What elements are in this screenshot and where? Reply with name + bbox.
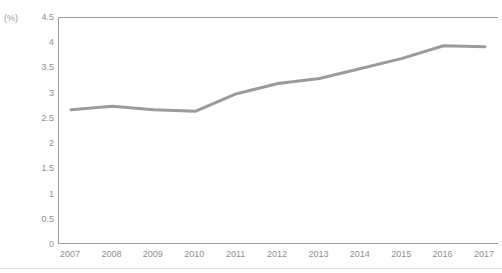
x-axis-tick-label: 2010: [184, 249, 204, 259]
y-axis-tick-label: 4: [24, 37, 54, 47]
x-axis: 2007200820092010201120122013201420152016…: [58, 249, 498, 265]
x-axis-tick-label: 2007: [60, 249, 80, 259]
x-axis-tick-label: 2011: [226, 249, 245, 259]
data-line-svg: [59, 18, 499, 245]
y-axis-tick-label: 2: [24, 138, 54, 148]
x-axis-tick-label: 2009: [143, 249, 163, 259]
y-axis: 4.543.532.521.510.50: [24, 16, 54, 244]
footer-divider: [0, 268, 502, 269]
y-axis-tick-label: 3.5: [24, 62, 54, 72]
x-axis-tick-label: 2014: [350, 249, 370, 259]
y-axis-tick-label: 0: [24, 239, 54, 249]
data-series-line: [71, 46, 485, 112]
y-axis-tick-label: 3: [24, 88, 54, 98]
x-axis-tick-label: 2016: [433, 249, 453, 259]
plot-area: [58, 17, 498, 244]
x-axis-tick-label: 2008: [101, 249, 121, 259]
y-axis-tick-label: 1: [24, 189, 54, 199]
y-axis-unit-label: (%): [4, 13, 18, 23]
y-axis-tick-label: 0.5: [24, 214, 54, 224]
x-axis-line: [58, 243, 498, 244]
x-axis-tick-label: 2017: [474, 249, 494, 259]
x-axis-tick-label: 2015: [391, 249, 411, 259]
y-axis-tick-label: 4.5: [24, 12, 54, 22]
x-axis-tick-label: 2012: [267, 249, 287, 259]
line-chart: (%) 4.543.532.521.510.50 200720082009201…: [0, 0, 502, 273]
y-axis-tick-label: 2.5: [24, 113, 54, 123]
x-axis-tick-label: 2013: [308, 249, 328, 259]
y-axis-tick-label: 1.5: [24, 163, 54, 173]
